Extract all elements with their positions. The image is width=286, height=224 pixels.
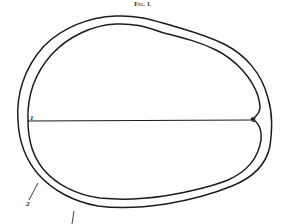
label-point-1: 1 <box>30 114 34 122</box>
label-point-2: 2 <box>251 116 256 124</box>
label-pointer-2: 2 <box>25 200 30 208</box>
diameter-line <box>28 120 253 121</box>
inner-skull-outline <box>28 24 261 199</box>
skull-outline-drawing: 1 2 2 <box>0 0 286 224</box>
lower-extension-line <box>72 211 74 224</box>
outer-skull-outline <box>18 16 272 208</box>
figure: Fig. I. 1 2 2 <box>0 0 286 224</box>
label-pointer-line <box>29 183 38 200</box>
